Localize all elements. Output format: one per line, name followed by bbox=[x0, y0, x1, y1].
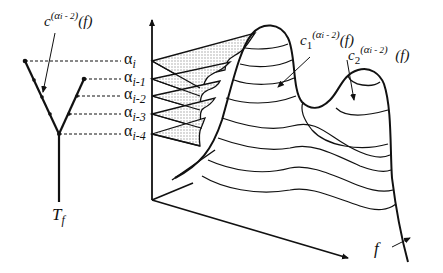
label-arg: (f) bbox=[78, 13, 92, 29]
level-dashed-lines bbox=[25, 61, 121, 134]
peak2-pointer bbox=[347, 60, 354, 100]
level-label-0: αi bbox=[124, 51, 136, 67]
tree-label-pointer bbox=[43, 33, 55, 92]
diagram-canvas bbox=[0, 0, 443, 273]
level-label-3: αi-3 bbox=[124, 104, 146, 120]
level-label-2: αi-2 bbox=[124, 86, 146, 102]
tree-node-label: c(αi - 2)(f) bbox=[44, 14, 92, 29]
level-planes bbox=[152, 33, 255, 146]
tree-branches bbox=[25, 61, 84, 202]
label-superscript: (αi - 2) bbox=[51, 9, 79, 21]
peak2-label: c2(αi - 2) (f) bbox=[348, 48, 409, 63]
peak1-label: c1(αi - 2)(f) bbox=[300, 33, 354, 48]
feature-axis-label: f bbox=[374, 240, 379, 257]
tree-label: Tf bbox=[52, 206, 65, 223]
depth-axis bbox=[152, 200, 348, 258]
level-label-4: αi-4 bbox=[124, 123, 146, 139]
label-base: c bbox=[44, 13, 51, 29]
level-label-1: αi-1 bbox=[124, 69, 146, 85]
f-pointer bbox=[392, 238, 410, 247]
tree-diagram bbox=[23, 33, 121, 202]
